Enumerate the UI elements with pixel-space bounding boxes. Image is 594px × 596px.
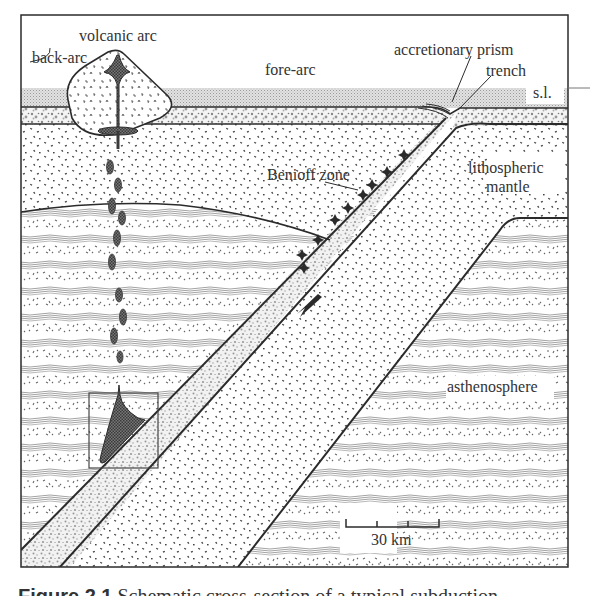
subduction-zone-diagram: volcanic arc back-arc fore-arc accretion…	[0, 0, 594, 596]
label-back-arc: back-arc	[32, 49, 87, 66]
label-fore-arc: fore-arc	[265, 61, 316, 78]
label-accretionary-prism: accretionary prism	[394, 41, 514, 59]
figure-number: Figure 2.1	[18, 585, 112, 596]
label-lithospheric-mantle-line2: mantle	[486, 178, 530, 195]
label-volcanic-arc: volcanic arc	[79, 27, 157, 44]
scale-bar-label: 30 km	[371, 531, 412, 548]
label-trench: trench	[486, 62, 526, 79]
figure-caption: Figure 2.1 Schematic cross-section of a …	[18, 583, 594, 596]
label-sea-level: s.l.	[533, 84, 552, 101]
figure-caption-text: Schematic cross-section of a typical sub…	[117, 585, 497, 596]
label-lithospheric-mantle-line1: lithospheric	[468, 159, 544, 177]
label-benioff-zone: Benioff zone	[267, 166, 350, 183]
label-asthenosphere: asthenosphere	[447, 378, 538, 396]
magma-feeder	[117, 131, 120, 149]
